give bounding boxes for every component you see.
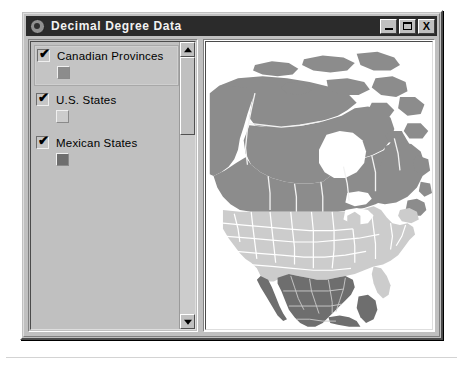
legend-swatch-row [36,151,177,168]
title-bar[interactable]: Decimal Degree Data X [26,16,437,36]
scroll-up-arrow-icon [184,47,192,52]
minimize-button[interactable] [380,19,397,34]
map-panel [203,39,435,332]
north-america-map[interactable] [206,42,432,329]
check-icon: ✔ [38,91,49,104]
window-inner-frame: Decimal Degree Data X ✔ [23,13,440,337]
scroll-down-button[interactable] [180,314,195,329]
legend-swatch-row [36,108,177,125]
scroll-up-button[interactable] [180,42,195,57]
legend-color-swatch[interactable] [57,66,70,79]
layer-visibility-checkbox[interactable]: ✔ [36,93,49,106]
scroll-down-arrow-icon [184,319,192,324]
legend-entry-header: ✔ Mexican States [36,134,177,151]
globe-icon [30,19,45,34]
legend-item-label: U.S. States [56,94,116,106]
close-button[interactable]: X [418,19,435,34]
map-viewport[interactable] [205,41,433,330]
window-title: Decimal Degree Data [49,19,378,33]
legend-item-label: Canadian Provinces [57,50,164,62]
legend-scrollbar[interactable] [179,42,195,329]
minimize-icon [385,28,393,30]
application-window: Decimal Degree Data X ✔ [20,10,443,340]
layer-visibility-checkbox[interactable]: ✔ [36,136,49,149]
legend-panel-inner: ✔ Canadian Provinces ✔ [30,41,196,330]
check-icon: ✔ [39,47,50,60]
legend-swatch-row [37,64,176,81]
maximize-button[interactable] [399,19,416,34]
scrollbar-track[interactable] [180,57,195,314]
maximize-icon [403,22,412,30]
layer-visibility-checkbox[interactable]: ✔ [37,49,50,62]
legend-panel: ✔ Canadian Provinces ✔ [28,39,198,332]
window-body: ✔ Canadian Provinces ✔ [28,39,435,332]
list-item[interactable]: ✔ U.S. States [34,90,179,129]
list-item[interactable]: ✔ Canadian Provinces [34,45,179,86]
check-icon: ✔ [38,134,49,147]
legend-entry-header: ✔ U.S. States [36,91,177,108]
list-item[interactable]: ✔ Mexican States [34,133,179,172]
legend-item-label: Mexican States [56,137,137,149]
close-icon: X [423,21,430,32]
page-divider [6,357,457,358]
legend-list[interactable]: ✔ Canadian Provinces ✔ [31,42,179,329]
scrollbar-thumb[interactable] [180,57,195,135]
legend-entry-header: ✔ Canadian Provinces [37,47,176,64]
legend-color-swatch[interactable] [56,153,69,166]
legend-color-swatch[interactable] [56,110,69,123]
